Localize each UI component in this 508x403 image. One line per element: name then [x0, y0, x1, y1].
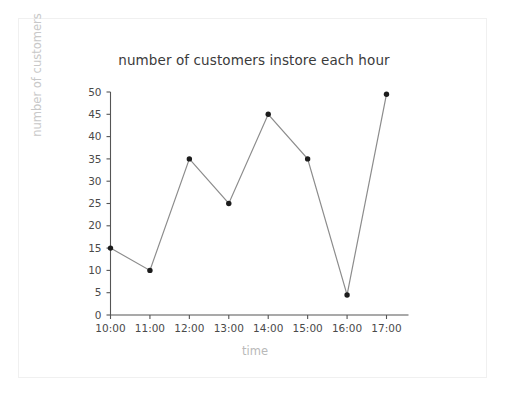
x-tick-label: 13:00 — [214, 322, 244, 334]
x-tick-label: 17:00 — [371, 322, 401, 334]
data-point-marker — [384, 92, 389, 97]
y-tick-label: 10 — [88, 264, 101, 276]
x-tick-label: 16:00 — [332, 322, 362, 334]
y-tick-label: 0 — [95, 309, 102, 321]
series-marker-group — [108, 92, 389, 298]
x-tick-label: 14:00 — [253, 322, 283, 334]
plot-area: 05101520253035404550 10:0011:0012:0013:0… — [0, 0, 508, 403]
x-tick-mark-group — [111, 315, 387, 319]
y-tick-label: 5 — [95, 286, 102, 298]
y-tick-label: 15 — [88, 242, 101, 254]
x-tick-label: 10:00 — [95, 322, 125, 334]
data-point-marker — [108, 245, 113, 250]
y-tick-label: 45 — [88, 108, 101, 120]
y-tick-label: 20 — [88, 219, 101, 231]
chart-figure: number of customers instore each hour nu… — [0, 0, 508, 403]
x-tick-label: 15:00 — [293, 322, 323, 334]
data-point-marker — [226, 201, 231, 206]
y-tick-label: 50 — [88, 86, 101, 98]
series-line — [111, 94, 387, 295]
y-tick-label: 40 — [88, 130, 101, 142]
y-tick-label: 35 — [88, 153, 101, 165]
data-point-marker — [344, 292, 349, 297]
data-point-marker — [187, 156, 192, 161]
data-point-marker — [305, 156, 310, 161]
y-tick-label-group: 05101520253035404550 — [88, 86, 101, 321]
data-point-marker — [266, 112, 271, 117]
y-tick-label: 25 — [88, 197, 101, 209]
y-tick-mark-group — [107, 92, 111, 315]
x-tick-label-group: 10:0011:0012:0013:0014:0015:0016:0017:00 — [95, 322, 401, 334]
data-point-marker — [147, 268, 152, 273]
y-tick-label: 30 — [88, 175, 101, 187]
x-tick-label: 11:00 — [135, 322, 165, 334]
x-tick-label: 12:00 — [174, 322, 204, 334]
